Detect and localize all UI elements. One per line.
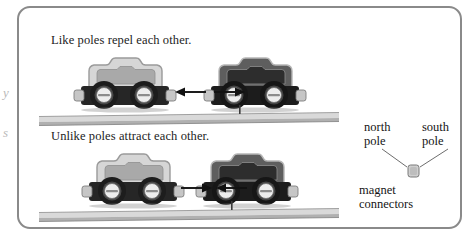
scene-repel — [39, 48, 339, 126]
force-arrows-repel — [175, 86, 245, 98]
legend-south-line1: south — [422, 120, 449, 134]
legend-south-line2: pole — [422, 134, 449, 148]
magnet-connector-icon — [408, 165, 419, 177]
train-car-light — [81, 153, 185, 211]
legend-leader-lines — [356, 148, 474, 182]
edge-fragment-glyph: s — [3, 126, 8, 139]
edge-fragment-glyph: y — [3, 86, 9, 99]
legend-label-magnet-connectors: magnet connectors — [359, 183, 413, 211]
legend-label-north-pole: north pole — [364, 120, 390, 148]
panel-caption-repel: Like poles repel each other. — [51, 33, 192, 48]
force-arrows-attract — [181, 182, 247, 194]
figure-frame: Like poles repel each other. Unlike pole… — [17, 6, 462, 229]
legend-connectors-line1: magnet — [359, 183, 396, 197]
legend-north-line1: north — [364, 120, 390, 134]
legend-connectors-line2: connectors — [359, 197, 413, 211]
legend-north-line2: pole — [364, 134, 390, 148]
legend-label-south-pole: south pole — [422, 120, 449, 148]
panel-caption-attract: Unlike poles attract each other. — [51, 129, 209, 144]
scene-attract — [39, 144, 339, 222]
train-car-light — [73, 57, 177, 115]
legend: north pole south pole magnet connectors — [356, 120, 474, 225]
